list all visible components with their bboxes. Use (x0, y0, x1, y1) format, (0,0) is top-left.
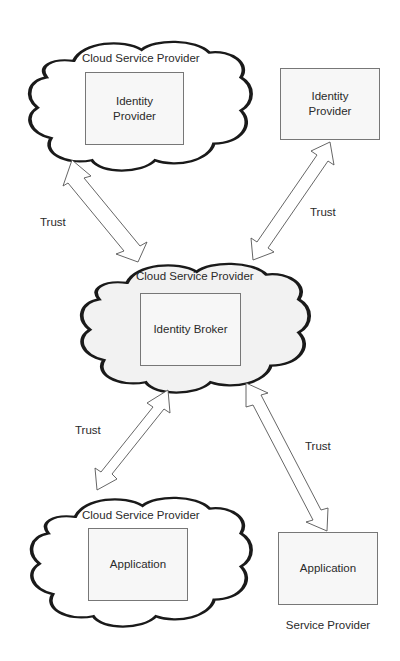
trust-arrow-2 (251, 142, 334, 260)
identity-provider-box-standalone-label: IdentityProvider (309, 89, 352, 119)
cloud-middle-title: Cloud Service Provider (136, 270, 246, 282)
trust-arrow-1 (63, 160, 147, 262)
identity-provider-box-standalone: IdentityProvider (280, 68, 380, 140)
trust-label-3: Trust (75, 424, 101, 436)
trust-arrow-3 (95, 390, 170, 490)
identity-provider-box-cloud: IdentityProvider (85, 72, 184, 145)
identity-provider-box-cloud-label: IdentityProvider (113, 94, 156, 124)
service-provider-caption: Service Provider (278, 619, 378, 631)
identity-broker-box: Identity Broker (140, 293, 241, 366)
application-box-standalone: Application (278, 532, 378, 605)
application-box-cloud-label: Application (110, 557, 166, 572)
trust-arrow-4 (246, 383, 328, 531)
identity-broker-box-label: Identity Broker (153, 322, 227, 337)
cloud-bottom-title: Cloud Service Provider (82, 509, 192, 521)
application-box-standalone-label: Application (300, 561, 356, 576)
cloud-top-title: Cloud Service Provider (82, 52, 192, 64)
application-box-cloud: Application (88, 528, 188, 601)
trust-label-4: Trust (305, 440, 331, 452)
trust-label-2: Trust (310, 206, 336, 218)
trust-label-1: Trust (40, 216, 66, 228)
